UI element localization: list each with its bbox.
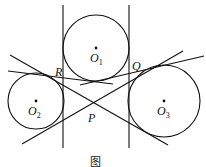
center-dot-o3: [163, 100, 166, 103]
label-r: R: [54, 65, 63, 79]
tangent-line-a: [10, 55, 168, 145]
figure-caption: 图: [90, 156, 101, 167]
geometry-diagram: O1 O2 O3 R Q P 图: [0, 0, 206, 167]
label-o3: O3: [157, 104, 170, 120]
center-dot-o1: [95, 47, 98, 50]
label-o2: O2: [28, 104, 41, 120]
label-p: P: [87, 111, 96, 125]
label-o1: O1: [90, 51, 103, 67]
center-dot-o2: [35, 100, 38, 103]
label-q: Q: [132, 59, 141, 73]
